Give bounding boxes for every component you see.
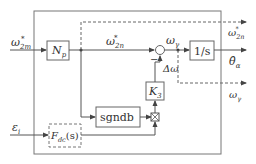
minus-sign: − — [150, 54, 158, 65]
integrator-label: 1/s — [194, 45, 211, 58]
label-omega-2m-star: ω2m* — [11, 35, 31, 51]
label-omega-gamma-out: ωγ — [229, 89, 241, 103]
label-omega-2n-star-mid: ω2n* — [106, 34, 124, 50]
block-diagram: ω2m* Np ω2n* ω2n* ωγ 1/s θ̂α ωγ sgndb — [0, 0, 256, 164]
label-epsilon-i: εi — [12, 121, 20, 136]
label-delta-omega: Δω — [162, 63, 178, 74]
junction-to-sgndb-line — [81, 50, 95, 117]
label-theta-hat-alpha: θ̂α — [229, 55, 241, 70]
label-omega-2n-star-out: ω2n* — [228, 25, 244, 41]
sgndb-label: sgndb — [100, 111, 134, 124]
multiplier-block — [151, 113, 159, 121]
label-omega-gamma-mid: ωγ — [166, 34, 180, 49]
